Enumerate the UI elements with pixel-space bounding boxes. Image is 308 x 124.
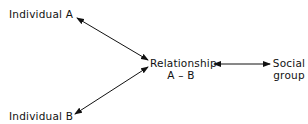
node-individual-a: Individual A: [9, 8, 73, 20]
edge-a-rel: [77, 18, 148, 60]
node-social-group: Social group: [271, 57, 307, 81]
edge-b-rel: [75, 67, 148, 114]
social-group-label-1: Social: [271, 57, 307, 69]
social-group-label-2: group: [271, 69, 307, 81]
relationship-sublabel: A – B: [150, 69, 212, 81]
node-individual-b: Individual B: [9, 110, 73, 122]
relationship-label: Relationship: [150, 57, 212, 69]
node-relationship: Relationship A – B: [150, 57, 212, 81]
